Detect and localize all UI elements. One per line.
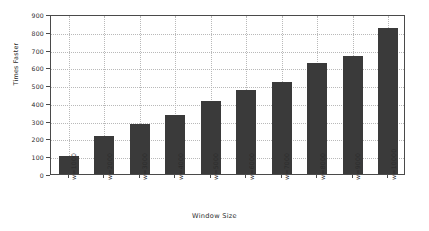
x-tick-label: w=4000 [177, 153, 184, 180]
bar-chart-figure: Times Faster 010020030040050060070080090… [0, 0, 429, 231]
plot-area [50, 15, 405, 175]
y-axis-title: Times Faster [12, 24, 20, 104]
x-tick-mark [68, 175, 69, 178]
x-tick-label: w=10000 [390, 149, 397, 180]
x-tick-mark [352, 175, 353, 178]
x-tick-label: w=5000 [212, 153, 219, 180]
y-tick-label: 200 [32, 136, 44, 143]
x-tick-mark [281, 175, 282, 178]
x-tick-label: w=6000 [248, 153, 255, 180]
x-tick-mark [139, 175, 140, 178]
y-tick-label: 500 [32, 83, 44, 90]
y-tick-label: 300 [32, 118, 44, 125]
x-tick-mark [210, 175, 211, 178]
x-gridline [69, 16, 70, 174]
y-axis: Times Faster 010020030040050060070080090… [0, 0, 50, 231]
x-tick-mark [387, 175, 388, 178]
y-tick-label: 800 [32, 29, 44, 36]
x-axis-title: Window Size [0, 212, 429, 220]
x-tick-mark [103, 175, 104, 178]
y-tick-label: 400 [32, 100, 44, 107]
y-tick-label: 700 [32, 47, 44, 54]
y-tick-label: 100 [32, 154, 44, 161]
y-tick-label: 600 [32, 65, 44, 72]
y-tick-label: 0 [40, 172, 44, 179]
x-tick-label: w=8000 [319, 153, 326, 180]
y-tick-label: 900 [32, 12, 44, 19]
x-tick-label: w=3000 [141, 153, 148, 180]
x-tick-label: w=9000 [354, 153, 361, 180]
y-tick-mark [46, 175, 50, 176]
x-tick-label: w=2000 [106, 153, 113, 180]
x-tick-mark [245, 175, 246, 178]
x-tick-label: w=7000 [283, 153, 290, 180]
x-tick-mark [174, 175, 175, 178]
x-tick-label: w=1000 [70, 153, 77, 180]
x-tick-mark [316, 175, 317, 178]
